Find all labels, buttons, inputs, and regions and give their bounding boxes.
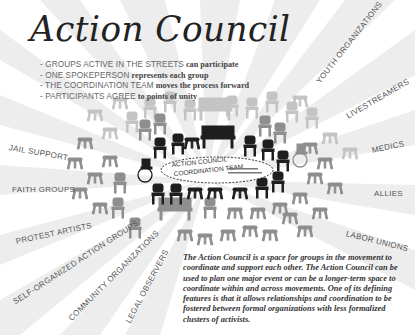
description-paragraph: The Action Council is a space for groups…	[183, 253, 408, 325]
group-label-allies: ALLIES	[374, 189, 403, 198]
group-label-faith-groups: FAITH GROUPS	[12, 185, 75, 194]
principle-detail: to points of unity	[138, 92, 197, 101]
principle-item: - ONE SPOKEPERSON represents each group	[40, 71, 249, 82]
principle-detail: moves the process forward	[156, 81, 249, 90]
principle-detail: represents each group	[132, 71, 209, 80]
page-title: Action Council	[30, 8, 291, 49]
principle-item: - GROUPS ACTIVE IN THE STREETS can parti…	[40, 60, 249, 71]
principle-item: - PARTICIPANTS AGREE to points of unity	[40, 92, 249, 103]
principle-detail: can participate	[186, 60, 239, 69]
principle-item: - THE COORDINATION TEAM moves the proces…	[40, 81, 249, 92]
principle-emphasis: - THE COORDINATION TEAM	[40, 81, 154, 90]
principle-emphasis: - GROUPS ACTIVE IN THE STREETS	[40, 60, 184, 69]
principle-emphasis: - PARTICIPANTS AGREE	[40, 92, 136, 101]
principle-emphasis: - ONE SPOKEPERSON	[40, 71, 130, 80]
action-council-infographic: ACTION COUNCIL COORDINATION TEAM Action …	[0, 0, 415, 335]
principles-list: - GROUPS ACTIVE IN THE STREETS can parti…	[40, 60, 249, 102]
